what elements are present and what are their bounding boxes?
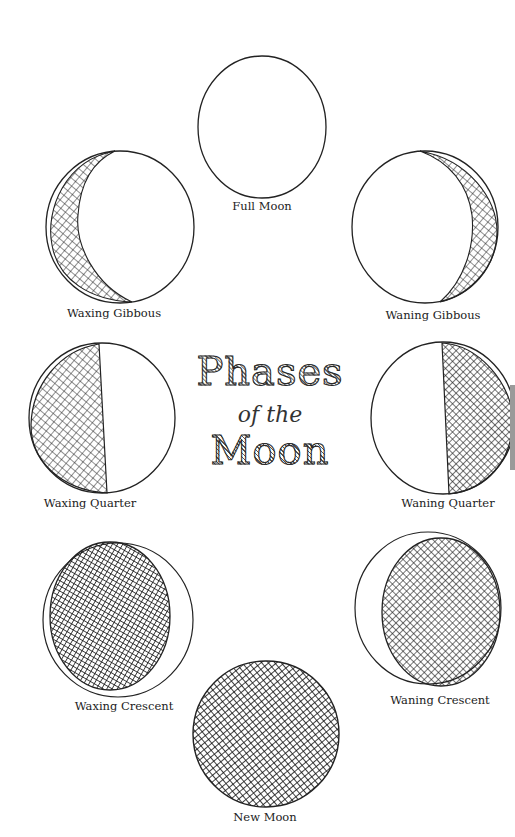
waxing-gibbous-icon: [46, 151, 194, 303]
page-edge-strip: [510, 385, 515, 470]
label-waxing-quarter: Waxing Quarter: [44, 496, 136, 510]
label-waxing-gibbous: Waxing Gibbous: [67, 306, 161, 320]
waning-quarter-icon: [371, 342, 515, 494]
label-waning-crescent: Waning Crescent: [390, 693, 489, 707]
waning-gibbous-icon: [352, 151, 498, 303]
label-full-moon: Full Moon: [232, 199, 291, 213]
label-waxing-crescent: Waxing Crescent: [75, 699, 174, 713]
new-moon-icon: [193, 661, 339, 807]
label-waning-quarter: Waning Quarter: [401, 496, 494, 510]
waning-crescent-icon: [355, 532, 501, 686]
title-line-moon: Moon: [211, 427, 330, 473]
waxing-crescent-icon: [43, 542, 193, 697]
label-waning-gibbous: Waning Gibbous: [385, 308, 480, 322]
title-line-of-the: of the: [238, 402, 302, 427]
waxing-quarter-icon: [29, 343, 175, 493]
title-line-phases: Phases: [196, 348, 343, 394]
label-new-moon: New Moon: [233, 810, 296, 824]
full-moon-icon: [198, 56, 326, 198]
